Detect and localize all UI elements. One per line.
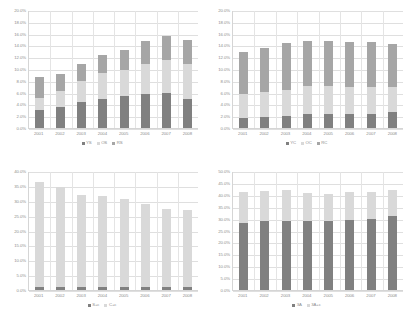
legend-item[interactable]: OS (97, 141, 108, 145)
stacked-bar[interactable] (120, 50, 129, 128)
bar-segment (183, 64, 192, 99)
bar-segment (282, 116, 291, 128)
legend-item[interactable]: 3A (292, 303, 302, 307)
bar-segment (388, 216, 397, 290)
legend-swatch-icon (286, 142, 289, 145)
legend-item[interactable]: 3A+c (307, 303, 321, 307)
y-axis-tick-label: 30.0% (218, 217, 230, 221)
stacked-bar[interactable] (77, 64, 86, 128)
plot-area (28, 11, 198, 129)
bar-segment (56, 287, 65, 290)
y-axis-tick-label: 35.0% (218, 206, 230, 210)
legend-swatch-icon (82, 142, 85, 145)
stacked-bar[interactable] (260, 191, 269, 290)
bar-segment (282, 43, 291, 90)
y-axis-labels: 0.0%5.0%10.0%15.0%20.0%25.0%30.0%35.0%40… (0, 161, 28, 323)
bar-segment (282, 90, 291, 117)
bar-segment (120, 287, 129, 290)
bar-segment (141, 204, 150, 287)
bar-segment (367, 42, 376, 87)
bar-segment (183, 287, 192, 290)
y-axis-tick-label: 6.0% (17, 91, 26, 95)
stacked-bar[interactable] (120, 199, 129, 290)
x-axis-tick-label: 2002 (253, 132, 274, 136)
x-axis-tick-label: 2002 (253, 294, 274, 298)
stacked-bar[interactable] (162, 209, 171, 290)
y-axis-tick-label: 35.0% (14, 185, 26, 189)
stacked-bar[interactable] (141, 204, 150, 290)
stacked-bar[interactable] (324, 41, 333, 128)
stacked-bar[interactable] (282, 190, 291, 290)
stacked-bar[interactable] (35, 77, 44, 128)
stacked-bar[interactable] (162, 36, 171, 128)
bar-segment (35, 287, 44, 290)
bar-segment (260, 117, 269, 128)
bar-segment (120, 96, 129, 128)
stacked-bar[interactable] (141, 41, 150, 128)
bar-segment (35, 110, 44, 128)
bar-slot (297, 11, 318, 128)
legend-item[interactable]: YC (286, 141, 296, 145)
y-axis-tick-label: 16.0% (14, 32, 26, 36)
stacked-bar[interactable] (260, 48, 269, 128)
stacked-bar[interactable] (239, 192, 248, 290)
stacked-bar[interactable] (56, 74, 65, 128)
stacked-bar[interactable] (98, 55, 107, 128)
stacked-bar[interactable] (324, 194, 333, 290)
bar-segment (183, 40, 192, 64)
bar-slot (177, 11, 198, 128)
bar-slot (339, 11, 360, 128)
legend-item[interactable]: OC (301, 141, 312, 145)
y-axis-tick-label: 50.0% (218, 170, 230, 174)
bar-slot (254, 11, 275, 128)
bar-segment (239, 52, 248, 94)
stacked-bar[interactable] (388, 190, 397, 290)
bar-slot (156, 172, 177, 290)
stacked-bar[interactable] (239, 52, 248, 128)
bar-series-container (233, 11, 403, 128)
legend-item[interactable]: RS (112, 141, 122, 145)
stacked-bar[interactable] (282, 43, 291, 128)
bar-slot (135, 11, 156, 128)
bar-segment (388, 44, 397, 86)
x-axis-tick-label: 2007 (360, 132, 381, 136)
y-axis-tick-label: 2.0% (17, 115, 26, 119)
stacked-bar[interactable] (303, 41, 312, 128)
stacked-bar[interactable] (345, 192, 354, 290)
y-axis-tick-label: 5.0% (221, 277, 230, 281)
x-axis-tick-label: 2002 (49, 294, 70, 298)
bar-segment (345, 87, 354, 115)
legend-item[interactable]: YS (82, 141, 92, 145)
legend-item[interactable]: RC (317, 141, 328, 145)
y-axis-tick-label: 18.0% (14, 21, 26, 25)
y-axis-tick-label: 10.0% (14, 68, 26, 72)
x-axis-tick-label: 2006 (134, 294, 155, 298)
stacked-bar[interactable] (183, 40, 192, 128)
stacked-bar[interactable] (345, 42, 354, 128)
stacked-bar[interactable] (56, 187, 65, 290)
stacked-bar[interactable] (77, 195, 86, 290)
chart-panel-top-right: 0.0%2.0%4.0%6.0%8.0%10.0%12.0%14.0%16.0%… (204, 0, 409, 161)
y-axis-labels: 0.0%2.0%4.0%6.0%8.0%10.0%12.0%14.0%16.0%… (204, 0, 232, 161)
y-axis-tick-label: 0.0% (17, 127, 26, 131)
y-axis-tick-label: 10.0% (218, 68, 230, 72)
stacked-bar[interactable] (303, 193, 312, 290)
legend-item[interactable]: S+c (88, 303, 100, 307)
y-axis-tick-label: 18.0% (218, 21, 230, 25)
stacked-bar[interactable] (367, 42, 376, 128)
stacked-bar[interactable] (367, 192, 376, 290)
chart-top-left: 0.0%2.0%4.0%6.0%8.0%10.0%12.0%14.0%16.0%… (0, 0, 204, 161)
horizontal-gridline (233, 129, 403, 130)
stacked-bar[interactable] (388, 44, 397, 128)
x-axis-tick-label: 2006 (134, 132, 155, 136)
x-axis-tick-label: 2004 (296, 294, 317, 298)
stacked-bar[interactable] (183, 210, 192, 290)
stacked-bar[interactable] (35, 182, 44, 290)
y-axis-tick-label: 20.0% (14, 9, 26, 13)
y-axis-tick-label: 4.0% (221, 103, 230, 107)
plot-area (232, 172, 403, 291)
bar-slot (233, 172, 254, 290)
bar-slot (361, 11, 382, 128)
legend-item[interactable]: C+c (104, 303, 116, 307)
stacked-bar[interactable] (98, 196, 107, 290)
